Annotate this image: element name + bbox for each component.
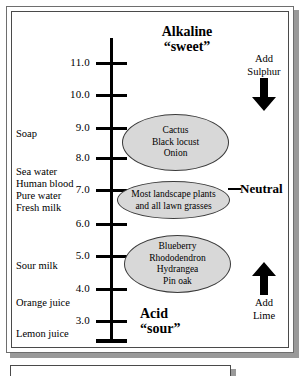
heading-acid-line1: Acid xyxy=(140,306,220,321)
tick-label-4-wrap: 4.0 xyxy=(48,283,90,294)
tick-mark-6 xyxy=(96,223,127,226)
substance-label-orange-juice: Orange juice xyxy=(16,297,70,308)
tick-mark-8 xyxy=(96,157,127,160)
tick-mark-11 xyxy=(96,62,127,65)
heading-acid-line2: “sour” xyxy=(140,321,220,336)
tick-label-6: 6.0 xyxy=(48,218,90,229)
substance-label-sour-milk: Sour milk xyxy=(16,260,58,271)
tick-label-4: 4.0 xyxy=(48,283,90,294)
tick-label-11: 11.0 xyxy=(48,57,90,68)
plant-alkaline-item-2: Black locust xyxy=(152,137,199,149)
heading-alkaline-line1: Alkaline xyxy=(133,24,241,39)
plant-neutral-item-2: and all lawn grasses xyxy=(135,200,211,212)
tick-label-9-wrap: 9.0 xyxy=(48,122,90,133)
tick-label-10: 10.0 xyxy=(48,89,90,100)
amendment-lime-line1: Add xyxy=(232,296,296,309)
arrow-down-icon xyxy=(232,78,296,112)
amendment-sulphur-line1: Add xyxy=(232,52,296,65)
amendment-sulphur-line2: Sulphur xyxy=(232,65,296,78)
substance-label-human-blood: Human blood xyxy=(16,178,73,189)
arrow-up-icon xyxy=(232,262,296,296)
tick-label-6-wrap: 6.0 xyxy=(48,218,90,229)
plant-neutral-item-1: Most landscape plants xyxy=(131,188,215,200)
heading-alkaline-line2: “sweet” xyxy=(133,39,241,54)
tick-label-11-wrap: 11.0 xyxy=(48,57,90,68)
tick-mark-5 xyxy=(96,255,127,258)
plant-acid-item-3: Hydrangea xyxy=(157,264,199,276)
caption-box xyxy=(10,365,231,376)
tick-label-3: 3.0 xyxy=(48,315,90,326)
plant-group-neutral: Most landscape plants and all lawn grass… xyxy=(117,181,230,219)
plant-acid-item-1: Blueberry xyxy=(159,241,197,253)
tick-mark-4 xyxy=(96,288,127,291)
heading-acid: Acid “sour” xyxy=(140,306,220,336)
tick-mark-9 xyxy=(96,127,127,130)
heading-alkaline: Alkaline “sweet” xyxy=(133,24,241,54)
label-neutral: Neutral xyxy=(240,182,283,195)
ph-axis-bottom-cap xyxy=(96,339,127,343)
amendment-lime: Add Lime xyxy=(232,262,296,322)
substance-label-pure-water: Pure water xyxy=(16,190,61,201)
tick-label-10-wrap: 10.0 xyxy=(48,89,90,100)
tick-mark-10 xyxy=(96,94,127,97)
substance-label-lemon-juice: Lemon juice xyxy=(16,328,69,339)
substance-label-fresh-milk: Fresh milk xyxy=(16,202,61,213)
plant-group-alkaline: Cactus Black locust Onion xyxy=(122,114,229,171)
tick-label-8: 8.0 xyxy=(48,152,90,163)
tick-label-3-wrap: 3.0 xyxy=(48,315,90,326)
tick-label-8-wrap: 8.0 xyxy=(48,152,90,163)
amendment-sulphur: Add Sulphur xyxy=(232,52,296,112)
plant-acid-item-2: Rhododendron xyxy=(149,253,205,265)
substance-label-soap: Soap xyxy=(16,128,37,139)
tick-mark-3 xyxy=(96,320,127,323)
amendment-lime-line2: Lime xyxy=(232,309,296,322)
substance-label-sea-water: Sea water xyxy=(16,166,57,177)
ph-scale-figure: Alkaline “sweet” Acid “sour” 11.0 10.0 9… xyxy=(0,0,303,376)
plant-alkaline-item-3: Onion xyxy=(164,148,188,160)
tick-label-9: 9.0 xyxy=(48,122,90,133)
plant-group-acid: Blueberry Rhododendron Hydrangea Pin oak xyxy=(124,235,231,293)
plant-acid-item-4: Pin oak xyxy=(163,276,192,288)
plant-alkaline-item-1: Cactus xyxy=(163,125,189,137)
